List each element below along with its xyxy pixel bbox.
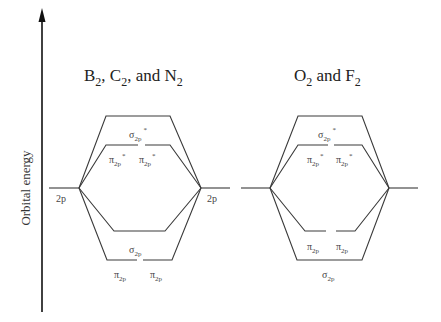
arrow-up-icon bbox=[39, 8, 46, 22]
pi-2p-label-1: π2p bbox=[114, 269, 127, 283]
panel-b2-c2-n2: B2, C2, and N2 2p 2p σ2p* π2p* π2p* σ2p … bbox=[49, 66, 230, 283]
sigma-2p-star-level bbox=[270, 116, 389, 188]
sigma-2p-star-level bbox=[79, 116, 201, 188]
panel-title: B2, C2, and N2 bbox=[84, 66, 183, 89]
sigma-2p-label: σ2p bbox=[129, 244, 142, 258]
sigma-2p-label: σ2p bbox=[322, 269, 335, 283]
pi-2p-star-label-1: π2p* bbox=[307, 152, 324, 168]
pi-2p-star-level-left bbox=[79, 145, 138, 188]
pi-2p-star-label-2: π2p* bbox=[139, 152, 156, 168]
energy-axis: Orbital energy bbox=[18, 8, 46, 312]
sigma-2p-star-label: σ2p* bbox=[318, 126, 336, 143]
pi-2p-star-label-2: π2p* bbox=[336, 152, 353, 168]
pi-2p-star-label-1: π2p* bbox=[109, 152, 126, 168]
sigma-2p-level bbox=[79, 188, 201, 231]
axis-label: Orbital energy bbox=[18, 150, 33, 226]
atomic-2p-left-label: 2p bbox=[56, 193, 66, 204]
sigma-2p-level bbox=[270, 188, 389, 260]
sigma-2p-star-label: σ2p* bbox=[129, 126, 147, 143]
pi-2p-label-2: π2p bbox=[336, 241, 349, 255]
pi-2p-label-1: π2p bbox=[307, 241, 320, 255]
mo-diagram: Orbital energy B2, C2, and N2 2p 2p σ2p*… bbox=[0, 0, 441, 322]
atomic-2p-right-label: 2p bbox=[207, 193, 217, 204]
pi-2p-label-2: π2p bbox=[150, 269, 163, 283]
panel-o2-f2: O2 and F2 σ2p* π2p* π2p* π2p π2p σ2p bbox=[241, 66, 418, 283]
panel-title: O2 and F2 bbox=[294, 66, 361, 89]
